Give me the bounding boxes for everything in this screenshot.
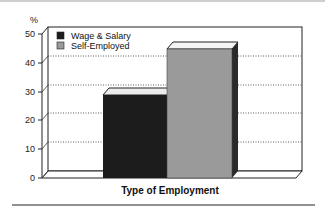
y-axis-ticks <box>38 34 42 178</box>
y-axis-unit: % <box>30 15 38 25</box>
bar-wage-salary <box>103 88 173 178</box>
bar-chart: % 50 40 30 20 10 0 Wage & Salary Self-Em… <box>0 0 325 208</box>
bar-self-employed <box>167 42 238 178</box>
y-tick-label: 0 <box>30 173 35 183</box>
y-tick-label: 30 <box>25 87 35 97</box>
y-tick-label: 20 <box>25 115 35 125</box>
legend-swatch-wage-salary <box>57 32 64 39</box>
y-tick-label: 50 <box>25 29 35 39</box>
x-axis-label: Type of Employment <box>121 185 219 196</box>
legend-swatch-self-employed <box>57 42 64 49</box>
y-tick-label: 40 <box>25 58 35 68</box>
legend-label: Self-Employed <box>71 41 130 51</box>
y-tick-label: 10 <box>25 144 35 154</box>
legend-label: Wage & Salary <box>71 31 131 41</box>
